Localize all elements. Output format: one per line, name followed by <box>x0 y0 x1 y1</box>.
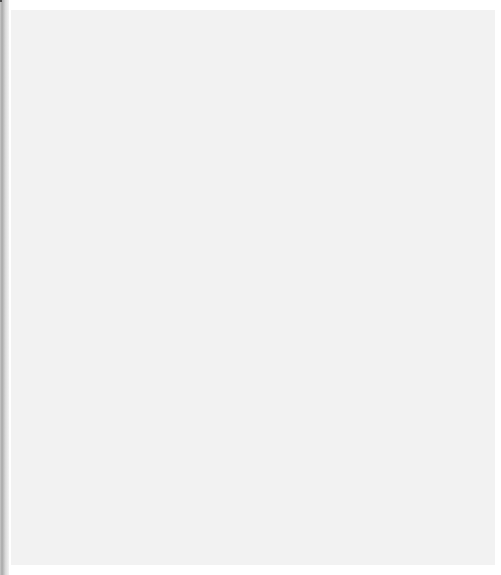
figure-title <box>20 22 24 38</box>
page-gutter-shadow <box>0 0 9 575</box>
figure-panel <box>11 10 495 565</box>
series-layer-bottom <box>1 1 2 2</box>
plot-area-bottom <box>0 0 2 2</box>
